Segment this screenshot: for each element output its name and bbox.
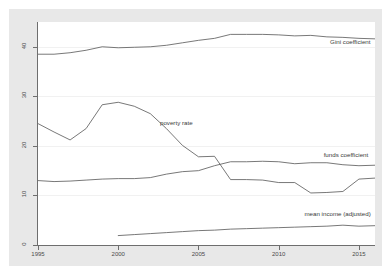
annotation-mean-income-adjusted: mean income (adjusted) [304, 210, 370, 217]
x-tick-label-2005: 2005 [183, 251, 213, 257]
x-tick-label-2010: 2010 [264, 251, 294, 257]
y-tick-mark-0 [33, 245, 37, 246]
annotation-funds-coefficient: funds coefficient [324, 151, 369, 158]
series-line-mean-income-adjusted [118, 225, 375, 235]
y-tick-mark-10 [33, 195, 37, 196]
y-tick-mark-40 [33, 47, 37, 48]
y-tick-mark-30 [33, 96, 37, 97]
x-tick-mark-1995 [38, 246, 39, 250]
x-tick-mark-2000 [118, 246, 119, 250]
annotation-poverty-rate: poverty rate [160, 119, 193, 126]
y-tick-label-40: 40 [21, 38, 27, 54]
x-tick-label-2015: 2015 [344, 251, 374, 257]
y-tick-label-20: 20 [21, 137, 27, 153]
series-line-poverty-rate [38, 102, 375, 193]
series-line-funds-coefficient [38, 161, 375, 181]
y-tick-label-30: 30 [21, 87, 27, 103]
annotation-gini-coefficient: Gini coefficient [330, 38, 370, 45]
x-tick-mark-2005 [198, 246, 199, 250]
x-tick-mark-2010 [279, 246, 280, 250]
y-tick-label-0: 0 [21, 236, 27, 252]
y-tick-mark-20 [33, 146, 37, 147]
x-tick-label-1995: 1995 [23, 251, 53, 257]
y-tick-label-10: 10 [21, 186, 27, 202]
x-tick-mark-2015 [359, 246, 360, 250]
series-line-gini-coefficient [38, 34, 375, 54]
x-axis-line [37, 245, 375, 246]
chart-figure: 010203040 19952000200520102015 Gini coef… [0, 0, 391, 275]
x-tick-label-2000: 2000 [103, 251, 133, 257]
